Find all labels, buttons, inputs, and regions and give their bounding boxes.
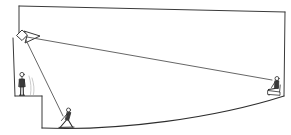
auditorium-section-diagram: Auditorium Cross-Section with Projection… bbox=[0, 0, 291, 135]
operator-torso bbox=[20, 79, 25, 87]
viewer-head bbox=[275, 77, 279, 81]
operator-head bbox=[20, 72, 24, 76]
section-drawing-canvas bbox=[0, 0, 291, 135]
viewer-torso bbox=[275, 81, 279, 89]
canvas-background bbox=[0, 0, 291, 135]
worker-head bbox=[67, 108, 71, 112]
